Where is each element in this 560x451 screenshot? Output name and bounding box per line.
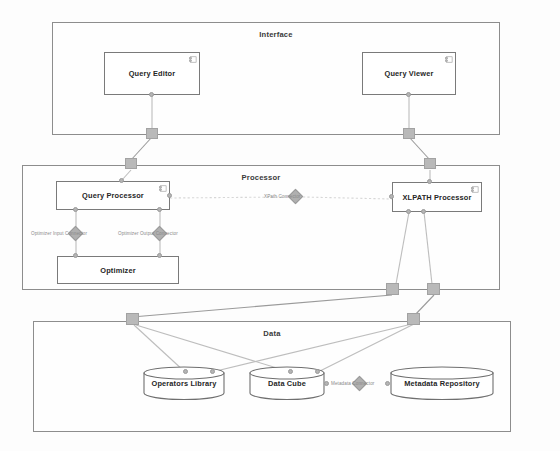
port-query-viewer-bottom[interactable]: [406, 92, 411, 97]
port-query-processor-bottom-left[interactable]: [73, 207, 78, 212]
component-query-editor-label: Query Editor: [129, 69, 176, 78]
database-data-cube-label: Data Cube: [248, 379, 326, 388]
junction-processor-bottom-left[interactable]: [386, 283, 399, 295]
component-optimizer[interactable]: Optimizer: [57, 256, 179, 284]
port-query-editor-bottom[interactable]: [149, 92, 154, 97]
database-operators-library-label: Operators Library: [142, 379, 226, 388]
port-query-processor-bottom-right[interactable]: [157, 207, 162, 212]
port-data-cube-top-right[interactable]: [315, 369, 320, 374]
junction-data-right[interactable]: [407, 313, 420, 325]
component-stereotype-icon: [189, 56, 197, 63]
port-operators-library-top-left[interactable]: [183, 369, 188, 374]
component-optimizer-label: Optimizer: [100, 266, 135, 275]
port-optimizer-top-left[interactable]: [73, 253, 78, 258]
port-data-cube-top-left[interactable]: [288, 369, 293, 374]
connector-metadata-label: Metadata Connector: [331, 381, 374, 386]
link-editor-junction-to-processor: [131, 137, 152, 160]
component-stereotype-icon: [445, 56, 453, 63]
component-stereotype-icon: [159, 185, 167, 192]
component-xlpath-processor[interactable]: XLPATH Processor: [392, 182, 482, 212]
port-optimizer-top-right[interactable]: [157, 253, 162, 258]
database-metadata-repository[interactable]: Metadata Repository: [389, 366, 495, 400]
component-query-processor-label: Query Processor: [82, 191, 144, 200]
package-interface-title: Interface: [53, 30, 499, 39]
port-xlpath-bottom-right[interactable]: [421, 209, 426, 214]
component-xlpath-processor-label: XLPATH Processor: [402, 193, 471, 202]
component-query-editor[interactable]: Query Editor: [104, 52, 200, 95]
junction-data-left[interactable]: [126, 313, 139, 325]
component-query-processor[interactable]: Query Processor: [56, 181, 170, 210]
port-operators-library-top-right[interactable]: [210, 369, 215, 374]
junction-interface-left[interactable]: [146, 128, 158, 139]
junction-processor-bottom-right[interactable]: [427, 283, 440, 295]
link-viewer-junction-to-processor: [409, 137, 430, 160]
port-xlpath-top[interactable]: [427, 179, 432, 184]
junction-processor-top-left[interactable]: [125, 158, 137, 169]
port-xlpath-bottom-left[interactable]: [406, 209, 411, 214]
junction-processor-top-right[interactable]: [424, 158, 436, 169]
diagram-canvas: Interface Query Editor Query Viewer Proc…: [0, 0, 560, 451]
connector-optimizer-output-label: Optimizer Output Connector: [118, 231, 178, 236]
database-metadata-repository-label: Metadata Repository: [389, 379, 495, 388]
connector-optimizer-input-label: Optimizer Input Connector: [31, 231, 87, 236]
port-data-cube-right[interactable]: [324, 381, 329, 386]
port-query-processor-top[interactable]: [119, 178, 124, 183]
component-query-viewer-label: Query Viewer: [385, 69, 434, 78]
link-lower-junction-to-data-left: [132, 295, 392, 317]
junction-interface-right[interactable]: [403, 128, 415, 139]
connector-xpath-label: XPath Connector: [264, 194, 301, 199]
port-query-processor-right[interactable]: [167, 193, 172, 198]
package-data-title: Data: [34, 329, 510, 338]
port-xlpath-left[interactable]: [389, 194, 394, 199]
component-query-viewer[interactable]: Query Viewer: [362, 52, 456, 95]
component-stereotype-icon: [471, 186, 479, 193]
